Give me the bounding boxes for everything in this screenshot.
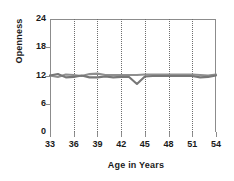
y-axis-tick-labels: 06121824: [22, 0, 46, 181]
x-tick-mark: [74, 132, 75, 137]
x-tick-label: 42: [109, 140, 133, 149]
x-tick-mark: [121, 132, 122, 137]
x-tick-mark: [192, 132, 193, 137]
x-tick-mark: [97, 132, 98, 137]
x-axis-title: Age in Years: [50, 160, 222, 170]
x-tick-mark: [50, 132, 51, 137]
x-tick-label: 36: [62, 140, 86, 149]
x-tick-mark: [145, 132, 146, 137]
x-tick-mark: [169, 132, 170, 137]
x-tick-mark: [216, 132, 217, 137]
y-tick-label: 12: [26, 71, 46, 80]
y-tick-label: 0: [26, 127, 46, 136]
x-tick-label: 51: [180, 140, 204, 149]
y-tick-label: 18: [26, 42, 46, 51]
line-chart-figure: Openness Age in Years 06121824 333639424…: [0, 0, 234, 181]
x-tick-label: 54: [204, 140, 228, 149]
plot-area: [50, 19, 216, 132]
x-tick-label: 39: [85, 140, 109, 149]
y-tick-label: 24: [26, 14, 46, 23]
y-tick-label: 6: [26, 99, 46, 108]
x-tick-label: 45: [133, 140, 157, 149]
x-tick-label: 33: [38, 140, 62, 149]
data-series-layer: [50, 19, 216, 132]
x-tick-label: 48: [157, 140, 181, 149]
